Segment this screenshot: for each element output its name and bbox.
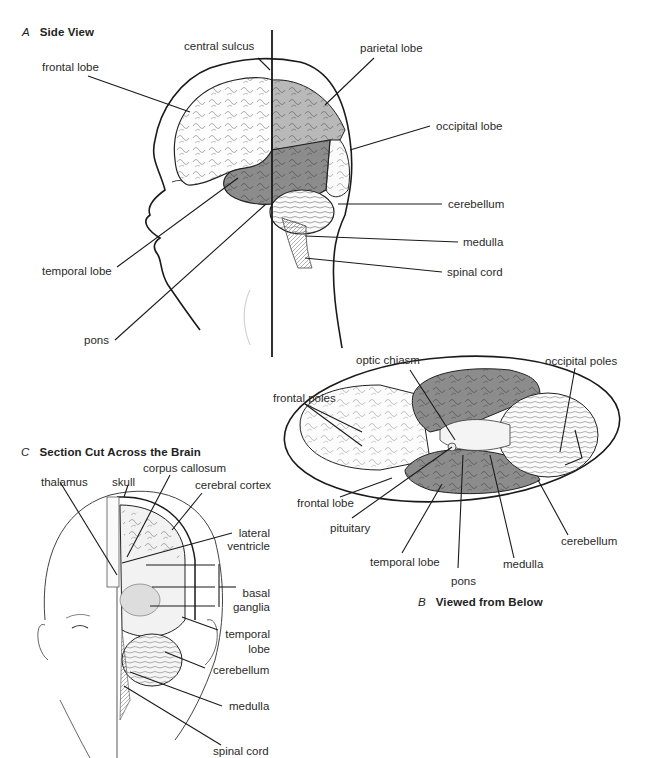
panel-c-section-view — [38, 491, 223, 758]
label-b-frontal-poles: frontal poles — [273, 392, 336, 405]
panel-a-title-text: Side View — [40, 26, 94, 38]
label-a-medulla: medulla — [463, 236, 503, 249]
label-c-temporal-lobe-2: lobe — [240, 643, 270, 656]
label-a-pons: pons — [84, 334, 109, 347]
label-c-cerebral-cortex: cerebral cortex — [195, 479, 271, 492]
label-b-cerebellum: cerebellum — [561, 535, 617, 548]
label-a-spinal-cord: spinal cord — [447, 266, 503, 279]
panel-c-title: CSection Cut Across the Brain — [21, 446, 201, 458]
label-b-occipital-poles: occipital poles — [545, 355, 617, 368]
panel-c-letter: C — [21, 446, 29, 458]
label-b-optic-chiasm: optic chiasm — [356, 354, 420, 367]
panel-b-title: BViewed from Below — [418, 596, 543, 608]
label-c-medulla: medulla — [229, 700, 269, 713]
label-a-central-sulcus: central sulcus — [184, 40, 254, 53]
label-c-skull: skull — [112, 476, 135, 489]
label-c-corpus-callosum: corpus callosum — [143, 462, 226, 475]
label-c-cerebellum: cerebellum — [213, 664, 269, 677]
panel-a-letter: A — [22, 26, 30, 38]
panel-a-title: ASide View — [22, 26, 94, 38]
label-c-lateral-ventricle-1: lateral — [228, 527, 270, 540]
label-b-frontal-lobe: frontal lobe — [297, 497, 354, 510]
label-b-pituitary: pituitary — [330, 522, 370, 535]
label-c-basal-ganglia-2: ganglia — [225, 601, 270, 614]
panel-b-letter: B — [418, 596, 426, 608]
label-a-occipital-lobe: occipital lobe — [436, 120, 502, 133]
label-c-temporal-lobe-1: temporal — [220, 628, 270, 641]
panel-b-title-text: Viewed from Below — [436, 596, 543, 608]
brain-diagram-artwork — [0, 0, 649, 758]
panel-c-title-text: Section Cut Across the Brain — [39, 446, 201, 458]
label-c-thalamus: thalamus — [41, 476, 88, 489]
label-b-medulla: medulla — [503, 558, 543, 571]
label-b-pons: pons — [451, 575, 476, 588]
label-b-temporal-lobe: temporal lobe — [370, 556, 440, 569]
panel-b-below-view — [279, 345, 624, 512]
panel-a-side-view — [146, 30, 352, 357]
label-a-frontal-lobe: frontal lobe — [42, 61, 99, 74]
label-a-parietal-lobe: parietal lobe — [360, 42, 423, 55]
label-c-lateral-ventricle-2: ventricle — [218, 540, 270, 553]
label-a-temporal-lobe: temporal lobe — [42, 265, 112, 278]
label-c-spinal-cord: spinal cord — [213, 745, 269, 758]
label-a-cerebellum: cerebellum — [448, 198, 504, 211]
label-c-basal-ganglia-1: basal — [235, 587, 270, 600]
